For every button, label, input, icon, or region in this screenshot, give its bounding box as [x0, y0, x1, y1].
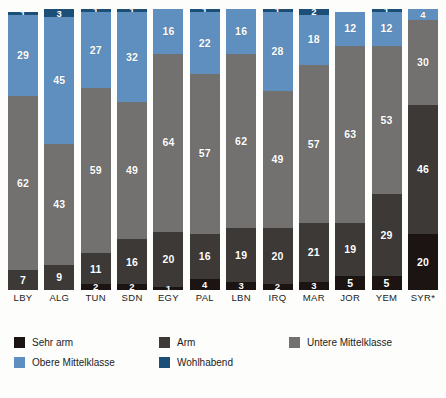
segment-value-label: 19: [235, 250, 247, 261]
bar-lby: 129627: [8, 9, 38, 290]
segment-obere-mittelklasse: 12: [335, 12, 365, 46]
segment-untere-mittelklasse: 49: [117, 102, 147, 240]
segment-value-label: 5: [347, 278, 353, 289]
legend-item-obere-mittelklasse: Obere Mittelklasse: [14, 357, 159, 368]
legend-swatch-untere-mittelklasse: [289, 337, 300, 348]
x-tick-mar: MAR: [299, 292, 329, 303]
legend-swatch-wohlhabend: [159, 357, 170, 368]
legend-row-1: Sehr arm Arm Untere Mittelklasse: [14, 337, 434, 348]
segment-untere-mittelklasse: 53: [372, 46, 402, 195]
segment-arm: 29: [372, 194, 402, 275]
segment-arm: 19: [335, 223, 365, 276]
segment-untere-mittelklasse: 43: [44, 144, 74, 265]
legend-label-sehr-arm: Sehr arm: [32, 337, 73, 348]
segment-arm: 7: [8, 270, 38, 290]
segment-value-label: 28: [271, 46, 283, 57]
segment-untere-mittelklasse: 62: [226, 54, 256, 228]
segment-untere-mittelklasse: 30: [408, 20, 438, 104]
segment-value-label: 30: [417, 57, 429, 68]
x-tick-syr: SYR*: [408, 292, 438, 303]
bar-tun: 12759112: [81, 9, 111, 290]
segment-obere-mittelklasse: 4: [408, 9, 438, 20]
segment-value-label: 62: [235, 136, 247, 147]
segment-obere-mittelklasse: 45: [44, 17, 74, 143]
segment-value-label: 27: [90, 45, 102, 56]
segment-value-label: 43: [53, 199, 65, 210]
segment-obere-mittelklasse: 16: [153, 9, 183, 54]
legend-item-wohlhabend: Wohlhabend: [159, 357, 289, 368]
segment-untere-mittelklasse: 59: [81, 88, 111, 254]
x-tick-egy: EGY: [153, 292, 183, 303]
segment-value-label: 16: [162, 26, 174, 37]
segment-value-label: 18: [308, 34, 320, 45]
segment-value-label: 29: [381, 230, 393, 241]
bar-sdn: 13249162: [117, 9, 147, 290]
segment-sehr-arm: 5: [372, 276, 402, 290]
x-axis-tick-labels: LBYALGTUNSDNEGYPALLBNIRQMARJORYEMSYR*: [8, 292, 438, 303]
legend-swatch-arm: [159, 337, 170, 348]
segment-arm: 21: [299, 223, 329, 281]
segment-value-label: 64: [162, 137, 174, 148]
segment-obere-mittelklasse: 32: [117, 12, 147, 102]
bar-syr: 4304620: [408, 9, 438, 290]
segment-sehr-arm: 5: [335, 276, 365, 290]
segment-sehr-arm: 3: [226, 282, 256, 290]
segment-arm: 9: [44, 265, 74, 290]
bar-lbn: 1662193: [226, 9, 256, 290]
segment-value-label: 12: [344, 23, 356, 34]
segment-value-label: 4: [420, 10, 425, 20]
segment-value-label: 2: [129, 282, 134, 292]
x-tick-tun: TUN: [81, 292, 111, 303]
segment-obere-mittelklasse: 22: [190, 12, 220, 74]
segment-untere-mittelklasse: 64: [153, 54, 183, 232]
segment-value-label: 5: [384, 278, 390, 289]
x-tick-lbn: LBN: [226, 292, 256, 303]
segment-untere-mittelklasse: 57: [299, 65, 329, 224]
segment-obere-mittelklasse: 28: [263, 12, 293, 91]
segment-arm: 19: [226, 228, 256, 281]
segment-value-label: 49: [271, 154, 283, 165]
segment-value-label: 32: [126, 52, 138, 63]
x-tick-lby: LBY: [8, 292, 38, 303]
segment-value-label: 12: [381, 23, 393, 34]
x-tick-sdn: SDN: [117, 292, 147, 303]
segment-sehr-arm: 2: [81, 284, 111, 290]
segment-value-label: 19: [344, 244, 356, 255]
segment-obere-mittelklasse: 29: [8, 15, 38, 96]
segment-arm: 46: [408, 105, 438, 234]
segment-untere-mittelklasse: 62: [8, 96, 38, 270]
segment-wohlhabend: 3: [44, 9, 74, 17]
legend-label-wohlhabend: Wohlhabend: [177, 357, 233, 368]
bar-mar: 21857213: [299, 9, 329, 290]
legend-item-sehr-arm: Sehr arm: [14, 337, 159, 348]
segment-value-label: 57: [308, 139, 320, 150]
stacked-bar-chart: 1296273454391275911213249162166420112257…: [0, 0, 446, 398]
segment-value-label: 20: [162, 254, 174, 265]
x-tick-alg: ALG: [44, 292, 74, 303]
bar-irq: 12849202: [263, 9, 293, 290]
segment-value-label: 16: [199, 251, 211, 262]
legend-label-obere-mittelklasse: Obere Mittelklasse: [32, 357, 115, 368]
bar-alg: 345439: [44, 9, 74, 290]
segment-value-label: 63: [344, 129, 356, 140]
segment-value-label: 7: [20, 275, 26, 286]
segment-value-label: 2: [93, 282, 98, 292]
legend-item-untere-mittelklasse: Untere Mittelklasse: [289, 337, 434, 348]
legend-swatch-obere-mittelklasse: [14, 357, 25, 368]
x-tick-jor: JOR: [335, 292, 365, 303]
segment-untere-mittelklasse: 63: [335, 46, 365, 223]
segment-arm: 16: [117, 239, 147, 284]
chart-legend: Sehr arm Arm Untere Mittelklasse Obere M…: [14, 337, 434, 377]
x-tick-irq: IRQ: [263, 292, 293, 303]
segment-sehr-arm: 3: [299, 282, 329, 290]
segment-value-label: 45: [53, 75, 65, 86]
segment-value-label: 16: [126, 257, 138, 268]
segment-value-label: 59: [90, 165, 102, 176]
segment-value-label: 49: [126, 165, 138, 176]
segment-sehr-arm: 1: [153, 287, 183, 290]
segment-value-label: 3: [238, 281, 243, 291]
segment-value-label: 62: [17, 178, 29, 189]
segment-obere-mittelklasse: 27: [81, 12, 111, 88]
bar-jor: 1263195: [335, 9, 365, 290]
segment-sehr-arm: 2: [117, 284, 147, 290]
